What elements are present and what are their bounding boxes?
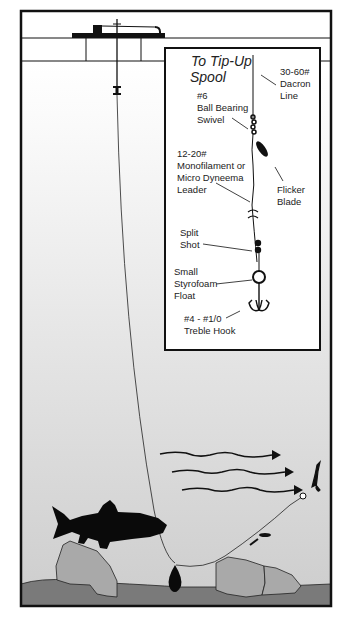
styrofoam-float-icon	[253, 271, 265, 283]
bait-float-icon	[300, 493, 306, 499]
split-shot-icon	[255, 240, 261, 246]
rig-detail-inset: To Tip-Up Spool 30-60# Dacron Line #6 Ba…	[165, 48, 320, 350]
label-split-shot: Split Shot	[180, 227, 201, 250]
tip-up-rig-diagram: To Tip-Up Spool 30-60# Dacron Line #6 Ba…	[0, 0, 345, 617]
leader-blade-icon	[259, 533, 271, 537]
